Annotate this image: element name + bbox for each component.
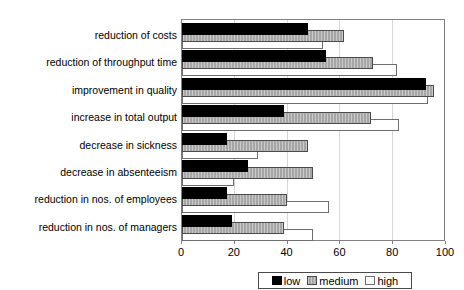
legend-swatch-medium-icon <box>307 276 317 285</box>
category-label: increase in total output <box>0 110 177 124</box>
legend-label-high: high <box>377 275 398 287</box>
bar-group <box>182 133 444 159</box>
bar-low <box>182 133 227 145</box>
bar-group <box>182 50 444 76</box>
category-label: reduction in nos. of employees <box>0 192 177 206</box>
bar-chart-figure: reduction of costsreduction of throughpu… <box>0 0 464 290</box>
x-axis-tick-label: 80 <box>386 246 398 258</box>
x-axis-tick-mark <box>339 241 340 244</box>
legend-item-low: low <box>272 275 301 287</box>
bar-group <box>182 105 444 131</box>
x-axis-tick-mark <box>392 241 393 244</box>
bar-low <box>182 23 308 35</box>
x-axis-tick-label: 0 <box>178 246 184 258</box>
bar-low <box>182 105 284 117</box>
bar-group <box>182 78 444 104</box>
bar-low <box>182 215 232 227</box>
x-axis-tick-mark <box>287 241 288 244</box>
category-label: reduction of costs <box>0 28 177 42</box>
category-label: reduction of throughput time <box>0 55 177 69</box>
category-label: decrease in absenteeism <box>0 165 177 179</box>
bar-low <box>182 50 326 62</box>
x-axis-tick-label: 100 <box>436 246 454 258</box>
category-label: reduction in nos. of managers <box>0 220 177 234</box>
plot-area <box>181 19 445 241</box>
x-axis-tick-label: 60 <box>333 246 345 258</box>
legend-item-high: high <box>365 275 398 287</box>
legend-item-medium: medium <box>307 275 358 287</box>
bar-group <box>182 23 444 49</box>
x-axis-tick-mark <box>181 241 182 244</box>
legend-label-low: low <box>284 275 301 287</box>
bar-group <box>182 187 444 213</box>
bar-group <box>182 215 444 241</box>
legend-swatch-high-icon <box>365 276 375 285</box>
bar-group <box>182 160 444 186</box>
bar-low <box>182 78 426 90</box>
category-label: improvement in quality <box>0 83 177 97</box>
x-axis-tick-label: 40 <box>280 246 292 258</box>
legend: low medium high <box>258 272 412 289</box>
legend-swatch-low-icon <box>272 276 282 285</box>
category-label: decrease in sickness <box>0 138 177 152</box>
legend-label-medium: medium <box>319 275 358 287</box>
x-axis-tick-mark <box>234 241 235 244</box>
bar-low <box>182 187 227 199</box>
bar-low <box>182 160 248 172</box>
x-axis-tick-label: 20 <box>228 246 240 258</box>
x-axis-tick-mark <box>445 241 446 244</box>
